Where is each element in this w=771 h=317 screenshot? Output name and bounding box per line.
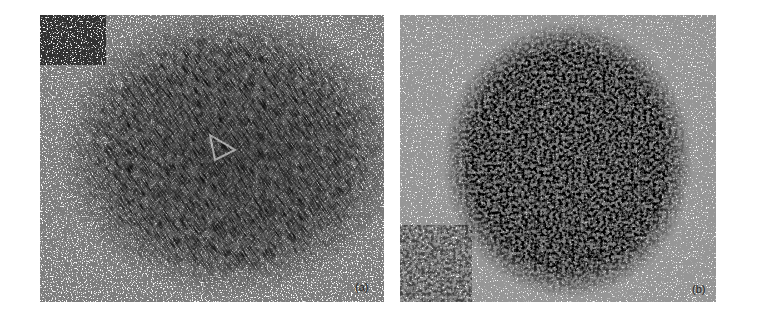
panel-a-label: (a) xyxy=(355,281,368,293)
panel-b-label: (b) xyxy=(692,283,705,295)
colony-granular-image xyxy=(400,15,716,302)
colony-swirl-image xyxy=(40,15,384,302)
panel-b-image xyxy=(400,15,716,302)
panel-a-image xyxy=(40,15,384,302)
